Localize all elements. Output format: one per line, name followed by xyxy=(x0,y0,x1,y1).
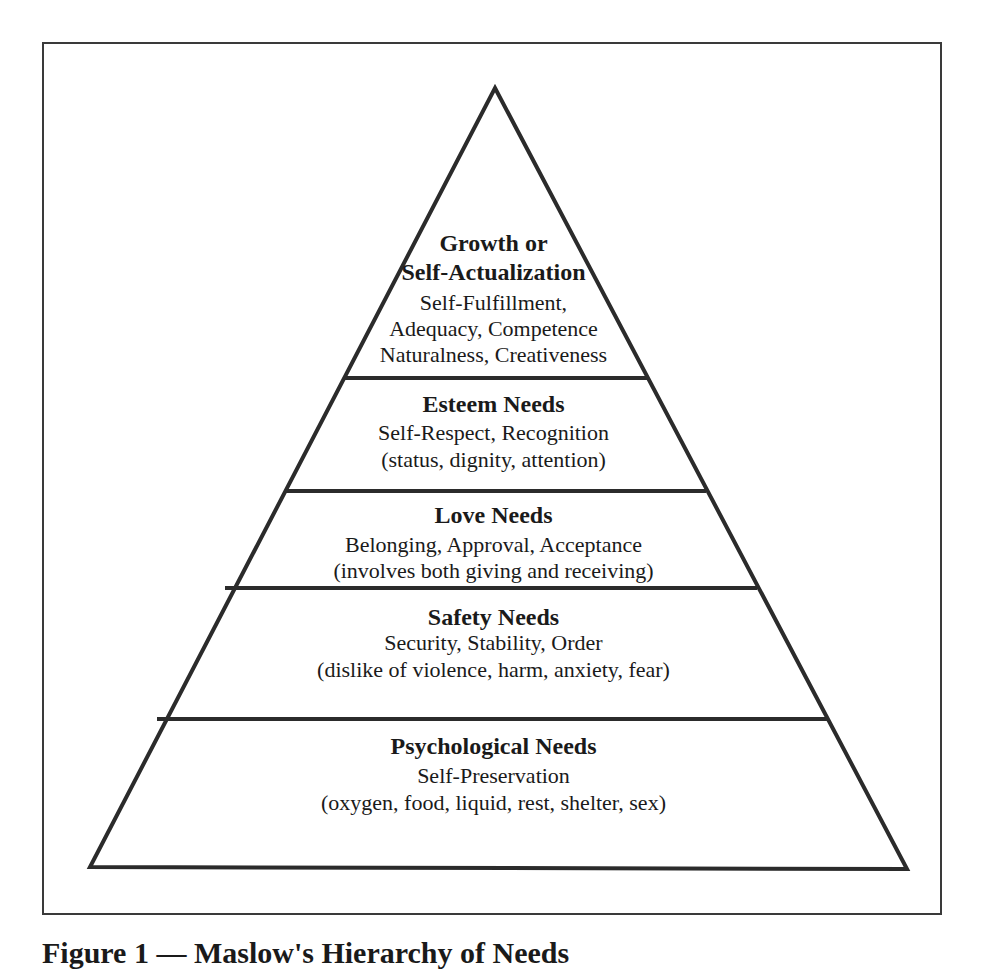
tier-detail: (oxygen, food, liquid, rest, shelter, se… xyxy=(0,792,987,814)
tier-title: Growth or xyxy=(0,231,987,255)
tier-detail: (involves both giving and receiving) xyxy=(0,560,987,582)
tier-title: Esteem Needs xyxy=(0,392,987,416)
tier-detail: (dislike of violence, harm, anxiety, fea… xyxy=(0,659,987,681)
tier-detail: Security, Stability, Order xyxy=(0,632,987,654)
tier-detail: (status, dignity, attention) xyxy=(0,449,987,471)
tier-detail: Naturalness, Creativeness xyxy=(0,344,987,366)
tier-detail: Belonging, Approval, Acceptance xyxy=(0,534,987,556)
tier-detail: Adequacy, Competence xyxy=(0,318,987,340)
tier-title: Love Needs xyxy=(0,503,987,527)
tier-detail: Self-Preservation xyxy=(0,765,987,787)
tier-title: Safety Needs xyxy=(0,605,987,629)
tier-detail: Self-Respect, Recognition xyxy=(0,422,987,444)
tier-title: Self-Actualization xyxy=(0,260,987,284)
tier-detail: Self-Fulfillment, xyxy=(0,292,987,314)
tier-title: Psychological Needs xyxy=(0,734,987,758)
figure-caption: Figure 1 — Maslow's Hierarchy of Needs xyxy=(42,938,569,968)
